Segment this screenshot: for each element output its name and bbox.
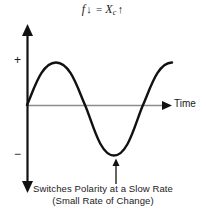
- x-axis-arrowhead-icon: [162, 101, 172, 110]
- caption-line-1: Switches Polarity at a Slow Rate: [33, 183, 173, 194]
- y-axis-positive-label: +: [14, 54, 21, 66]
- x-axis-label: Time: [174, 98, 196, 109]
- sine-waveform: [27, 63, 172, 156]
- figure-annotation-caption: Switches Polarity at a Slow Rate (Small …: [0, 183, 206, 207]
- annotation-pointer-arrowhead-icon: [113, 159, 120, 167]
- y-axis-top-arrowhead-icon: [22, 24, 33, 36]
- caption-line-2: (Small Rate of Change): [0, 195, 206, 207]
- figure-container: f↓=Xc↑ + − Time Switches Polarity at a S…: [0, 0, 206, 218]
- y-axis-negative-label: −: [14, 148, 21, 160]
